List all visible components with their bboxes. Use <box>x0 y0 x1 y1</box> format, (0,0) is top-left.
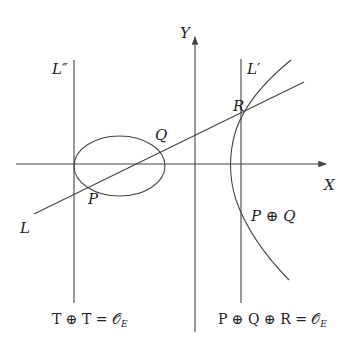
equation-right: P ⊕ Q ⊕ R = 𝒪E <box>218 311 327 329</box>
point-P-plus-Q-label: P ⊕ Q <box>250 207 296 225</box>
line-L-double-prime-label: L″ <box>51 60 68 78</box>
point-R-label: R <box>232 97 244 115</box>
equation-left: T ⊕ T = 𝒪E <box>52 311 128 329</box>
line-L-prime-label: L′ <box>246 60 261 78</box>
line-L-label: L <box>19 219 30 237</box>
point-P-label: P <box>87 190 99 208</box>
point-Q-label: Q <box>155 126 167 144</box>
y-axis-label: Y <box>180 24 192 42</box>
x-axis-label: X <box>323 176 336 194</box>
curve-oval-component <box>74 136 165 196</box>
elliptic-curve-diagram: Y X L L′ L″ P Q R P ⊕ Q T ⊕ T = 𝒪E P ⊕ Q… <box>0 0 355 346</box>
